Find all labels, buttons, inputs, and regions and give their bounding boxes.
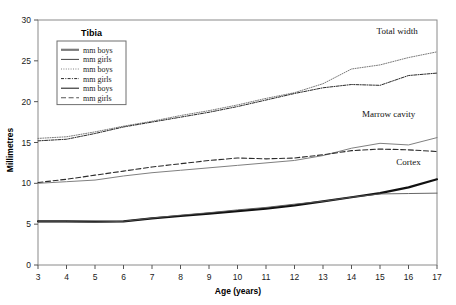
x-tick-label-8: 8 — [178, 272, 183, 282]
y-tick-label-15: 15 — [22, 138, 32, 148]
legend-label-3: mm girls — [83, 75, 112, 84]
annotation-marrow-cavity: Marrow cavity — [362, 109, 416, 119]
x-axis-title: Age (years) — [215, 286, 261, 296]
y-tick-label-20: 20 — [22, 97, 32, 107]
x-tick-label-12: 12 — [290, 272, 300, 282]
x-tick-label-10: 10 — [233, 272, 243, 282]
y-tick-label-0: 0 — [26, 260, 31, 270]
chart-canvas: 051015202530 34567891011121314151617 Tot… — [0, 0, 456, 305]
legend-label-5: mm girls — [83, 94, 112, 103]
x-tick-label-11: 11 — [262, 272, 271, 282]
legend-title: Tibia — [81, 28, 103, 38]
y-tick-label-30: 30 — [22, 15, 32, 25]
x-tick-label-16: 16 — [404, 272, 414, 282]
x-tick-label-3: 3 — [36, 272, 41, 282]
y-tick-label-10: 10 — [22, 178, 32, 188]
y-tick-label-25: 25 — [22, 56, 32, 66]
legend-label-4: mm boys — [83, 84, 113, 93]
annotation-total-width: Total width — [377, 26, 419, 36]
x-tick-label-5: 5 — [93, 272, 98, 282]
x-tick-label-15: 15 — [375, 272, 385, 282]
legend-label-2: mm boys — [83, 65, 113, 74]
x-tick-label-9: 9 — [207, 272, 212, 282]
y-tick-label-5: 5 — [26, 219, 31, 229]
tibia-growth-chart: 051015202530 34567891011121314151617 Tot… — [0, 0, 456, 305]
x-tick-label-14: 14 — [347, 272, 357, 282]
x-tick-label-4: 4 — [64, 272, 69, 282]
x-tick-label-17: 17 — [432, 272, 442, 282]
x-tick-label-7: 7 — [150, 272, 155, 282]
y-axis-title: Millimetres — [5, 128, 15, 173]
legend-label-0: mm boys — [83, 46, 113, 55]
legend-label-1: mm girls — [83, 55, 112, 64]
annotation-cortex: Cortex — [396, 157, 421, 167]
x-tick-label-6: 6 — [121, 272, 126, 282]
x-tick-label-13: 13 — [318, 272, 328, 282]
